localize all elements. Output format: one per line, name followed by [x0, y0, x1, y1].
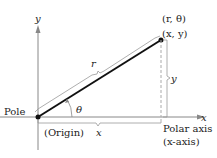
y-axis-arrow-icon — [36, 25, 41, 33]
r-brace — [35, 36, 160, 112]
polar-axis-label: Polar axis — [163, 123, 212, 134]
x-brace — [38, 119, 161, 126]
x-brace-label: x — [96, 127, 102, 138]
polar-rectangular-diagram: y x (r, θ) (x, y) r y θ Pole (Origin) x … — [0, 0, 217, 158]
origin-point — [36, 115, 41, 120]
rect-coords-label: (x, y) — [162, 28, 188, 39]
x-axis-note-label: (x-axis) — [163, 136, 200, 147]
polar-coords-label: (r, θ) — [162, 13, 186, 24]
x-axis-label: x — [201, 112, 207, 123]
r-label: r — [91, 58, 97, 69]
theta-label: θ — [76, 104, 82, 115]
y-brace — [163, 40, 170, 117]
y-brace-label: y — [170, 73, 177, 84]
origin-label: (Origin) — [44, 127, 84, 138]
r-segment — [38, 40, 161, 117]
y-axis-label: y — [34, 13, 41, 24]
pole-label: Pole — [4, 106, 26, 117]
